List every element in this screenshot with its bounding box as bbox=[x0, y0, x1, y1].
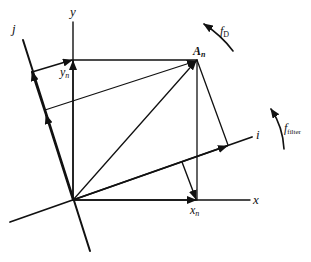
filter-label: ffilter bbox=[284, 121, 302, 136]
diagram-canvas: y x j i An yn xn fD ffilter bbox=[0, 0, 311, 262]
j-axis-label: j bbox=[10, 21, 16, 36]
x-axis-label: x bbox=[252, 192, 259, 207]
j-component-arrow bbox=[46, 115, 73, 200]
doppler-label: fD bbox=[220, 24, 229, 39]
i-projection-line bbox=[197, 60, 228, 145]
i-axis-label: i bbox=[256, 127, 260, 142]
vector-label: An bbox=[192, 44, 206, 59]
j-component-arrow-2 bbox=[32, 72, 46, 115]
i-to-x-arrow bbox=[182, 162, 196, 199]
filter-rotation-arrow bbox=[271, 109, 284, 149]
y-n-label: yn bbox=[59, 65, 69, 80]
j-projection-line bbox=[45, 61, 196, 110]
y-axis-label: y bbox=[68, 4, 76, 19]
diagram: y x j i An yn xn fD ffilter bbox=[0, 0, 311, 262]
x-n-label: xn bbox=[189, 203, 199, 218]
